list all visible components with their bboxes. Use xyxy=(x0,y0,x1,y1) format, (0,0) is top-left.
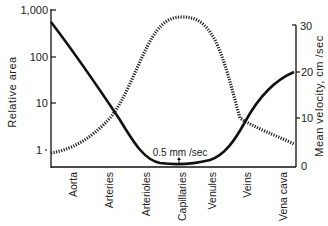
area-curve-dotted xyxy=(51,17,294,153)
category-arteries: Arteries xyxy=(103,172,115,208)
left-axis-title: Relative area xyxy=(6,56,18,128)
left-tick-1: 1 xyxy=(36,144,42,156)
category-veins: Veins xyxy=(241,172,253,198)
category-labels: Aorta Arteries Arterioles Capillaries Ve… xyxy=(67,172,289,221)
right-axis: 30 20 10 0 Mean velocity, cm /sec xyxy=(292,20,325,172)
velocity-curve-solid xyxy=(51,22,294,164)
left-tick-10: 10 xyxy=(36,97,48,109)
left-tick-1000: 1,000 xyxy=(20,4,48,16)
blood-flow-chart: 1,000 100 10 1 Relative area 30 20 10 0 … xyxy=(0,0,328,226)
category-venules: Venules xyxy=(206,172,218,209)
right-tick-0: 0 xyxy=(301,160,307,172)
category-capillaries: Capillaries xyxy=(176,172,188,221)
category-aorta: Aorta xyxy=(67,172,79,197)
left-axis: 1,000 100 10 1 Relative area xyxy=(6,4,56,168)
left-tick-100: 100 xyxy=(30,51,48,63)
right-tick-10: 10 xyxy=(301,112,313,124)
capillary-velocity-annotation: 0.5 mm /sec xyxy=(153,147,207,163)
category-arterioles: Arterioles xyxy=(140,172,152,216)
right-tick-20: 20 xyxy=(301,66,313,78)
annotation-text: 0.5 mm /sec xyxy=(153,147,207,158)
right-axis-title: Mean velocity, cm /sec xyxy=(313,35,325,156)
right-tick-30: 30 xyxy=(300,20,312,32)
category-vena-cava: Vena cava xyxy=(277,172,289,221)
